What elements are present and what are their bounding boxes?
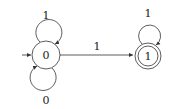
state-1: 1 bbox=[135, 43, 161, 69]
loop-0-top-label: 1 bbox=[43, 9, 50, 22]
loop-1-top: 1 bbox=[139, 7, 161, 45]
loop-0-bottom-label: 0 bbox=[43, 94, 50, 107]
state-0-label: 0 bbox=[43, 49, 50, 62]
edge-0-to-1: 1 bbox=[60, 40, 133, 55]
loop-0-bottom: 0 bbox=[30, 66, 56, 107]
diagram-canvas: 0 1 0 1 1 1 bbox=[0, 0, 175, 109]
edge-0-to-1-label: 1 bbox=[94, 40, 101, 53]
loop-1-top-label: 1 bbox=[145, 7, 152, 20]
loop-0-top: 1 bbox=[36, 9, 62, 44]
state-0: 0 bbox=[32, 41, 60, 69]
automaton-diagram: 0 1 0 1 1 1 bbox=[0, 0, 175, 109]
state-1-label: 1 bbox=[145, 50, 152, 63]
